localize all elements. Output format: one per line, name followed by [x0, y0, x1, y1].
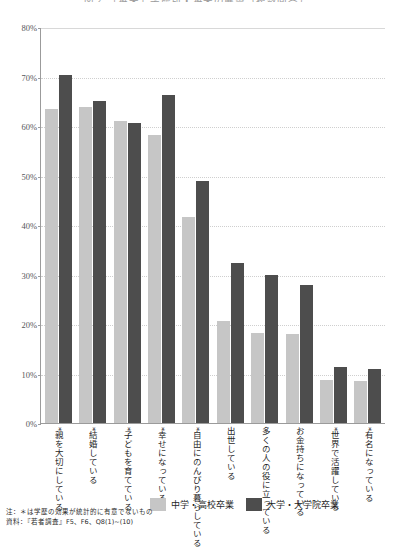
x-axis-category: お金持ちになっている: [282, 427, 317, 505]
x-axis-category-label: *幸せになっている: [156, 427, 165, 505]
bar: [196, 181, 209, 423]
bar: [251, 333, 264, 423]
bar: [128, 123, 141, 423]
bar-group: [282, 28, 316, 423]
bar: [354, 381, 367, 423]
bar-group: [316, 28, 350, 423]
chart-legend: 中学・高校卒業大学・大学院卒業: [150, 498, 339, 511]
bar: [114, 121, 127, 423]
y-axis-tick-label: 50%: [3, 172, 37, 182]
x-axis-category: *有名になっている: [351, 427, 386, 505]
bar-group: [144, 28, 178, 423]
legend-item: 大学・大学院卒業: [246, 498, 339, 511]
y-axis-tick-label: 20%: [3, 320, 37, 330]
y-axis-tick-label: 10%: [3, 370, 37, 380]
bar-groups: [41, 28, 385, 423]
bar-group: [179, 28, 213, 423]
bar-group: [75, 28, 109, 423]
bar: [334, 367, 347, 423]
bar: [368, 369, 381, 423]
x-axis-category-label: お金持ちになっている: [294, 427, 303, 505]
x-axis-category-labels: *親を大切にしている*結婚している*子どもを育てている*幸せになっている*自由に…: [40, 427, 385, 505]
legend-item: 中学・高校卒業: [150, 498, 234, 511]
bar-group: [213, 28, 247, 423]
y-axis-tick-label: 0%: [3, 419, 37, 429]
bar: [59, 75, 72, 423]
footnote-source: 資料：『若者調査』F5、F6、Q8(1)~(10): [6, 517, 153, 527]
bar: [45, 109, 58, 423]
bar-group: [110, 28, 144, 423]
x-axis-category-label: 多くの人の役に立っている: [260, 427, 269, 505]
footnotes: 注：＊は学歴の効果が統計的に有意でないもの 資料：『若者調査』F5、F6、Q8(…: [6, 507, 153, 527]
x-axis-category-label: *世界で活躍している: [329, 427, 338, 505]
bar: [320, 380, 333, 423]
bar: [231, 263, 244, 423]
bar: [217, 321, 230, 423]
x-axis-category: 多くの人の役に立っている: [247, 427, 282, 505]
y-axis-tick-label: 40%: [3, 221, 37, 231]
bar-group: [351, 28, 385, 423]
bar-group: [247, 28, 281, 423]
x-axis-category-label: *子どもを育てている: [122, 427, 131, 505]
x-axis-category: 出世している: [213, 427, 248, 505]
bar: [162, 95, 175, 423]
footnote-note: 注：＊は学歴の効果が統計的に有意でないもの: [6, 507, 153, 517]
legend-swatch: [246, 498, 262, 511]
x-axis-category-label: *自由にのんびり暮らしている: [191, 427, 200, 505]
x-axis-category: *世界で活躍している: [316, 427, 351, 505]
y-axis-tick-label: 70%: [3, 73, 37, 83]
bar: [265, 275, 278, 424]
x-axis-category: *親を大切にしている: [40, 427, 75, 505]
bar: [93, 101, 106, 423]
bar-group: [41, 28, 75, 423]
y-axis-tick-mark: [38, 424, 41, 425]
x-axis-category: *結婚している: [75, 427, 110, 505]
x-axis-category: *自由にのんびり暮らしている: [178, 427, 213, 505]
y-axis-tick-label: 30%: [3, 271, 37, 281]
y-axis-tick-label: 80%: [3, 23, 37, 33]
bar: [286, 334, 299, 423]
bar: [79, 107, 92, 423]
x-axis-category-label: 出世している: [225, 427, 234, 505]
chart-title: 図２ 「将来」学歴別・将来の展望（複数回答）: [0, 0, 393, 2]
bar: [148, 135, 161, 423]
x-axis-category: *子どもを育てている: [109, 427, 144, 505]
y-axis-tick-label: 60%: [3, 122, 37, 132]
x-axis-category-label: *親を大切にしている: [53, 427, 62, 505]
bar: [300, 285, 313, 423]
x-axis-category-label: *結婚している: [87, 427, 96, 505]
x-axis-category: *幸せになっている: [144, 427, 179, 505]
plot-area: [40, 28, 385, 424]
legend-label: 大学・大学院卒業: [267, 498, 339, 511]
legend-label: 中学・高校卒業: [171, 498, 234, 511]
x-axis-category-label: *有名になっている: [363, 427, 372, 505]
bar: [182, 217, 195, 423]
